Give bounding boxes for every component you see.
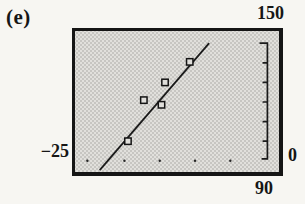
x-axis-tick-dot [123, 160, 125, 162]
figure-panel: (e) 150 −25 0 90 [0, 0, 305, 204]
y-axis-ruler [260, 43, 267, 159]
x-axis-tick-dot [86, 160, 88, 162]
window-ymax-label: 150 [257, 4, 284, 22]
data-point-marker [141, 97, 147, 103]
data-point-marker [158, 102, 164, 108]
x-axis-tick-dot [229, 160, 231, 162]
data-point-marker [125, 138, 131, 144]
x-axis-tick-dot [159, 160, 161, 162]
window-ymin-label: 0 [288, 146, 297, 164]
data-point-marker [187, 59, 193, 65]
scatter-plot [0, 0, 305, 204]
window-xmin-label: −25 [41, 142, 69, 160]
data-point-marker [162, 79, 168, 85]
window-xmax-label: 90 [255, 179, 273, 197]
x-axis-tick-dot [194, 160, 196, 162]
